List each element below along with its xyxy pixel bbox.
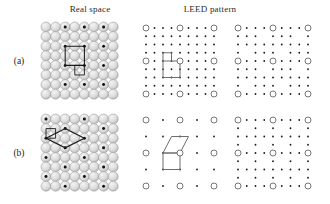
a-leed-multi-svg	[232, 22, 314, 100]
b-leed-multi-svg	[232, 114, 314, 192]
substrate-spots	[143, 117, 217, 189]
panel-a-leed-multi-domain	[232, 22, 314, 100]
a-leed-single-svg	[140, 22, 220, 100]
column-heading-real-space: Real space	[45, 4, 135, 14]
panel-b-leed-single-domain	[140, 114, 220, 192]
figure-leed-real-space: Real space LEED pattern (a) (b)	[0, 0, 330, 204]
a-real-space-svg	[41, 22, 119, 100]
b-leed-single-svg	[140, 114, 220, 192]
panel-a-leed-single-domain	[140, 22, 220, 100]
reciprocal-unit-cell	[163, 153, 180, 170]
panel-b-leed-multi-domain	[232, 114, 314, 192]
substrate-sphere-lattice	[41, 22, 118, 99]
panel-b-real-space	[41, 114, 119, 192]
reciprocal-cell-stub	[163, 53, 172, 61]
oblique-reciprocal-cell	[163, 137, 189, 154]
b-real-space-svg	[41, 114, 119, 192]
substrate-sphere-lattice	[41, 114, 118, 191]
panel-a-real-space	[41, 22, 119, 100]
row-label-b: (b)	[6, 148, 32, 158]
row-label-a: (a)	[6, 56, 32, 66]
column-heading-leed-pattern: LEED pattern	[150, 4, 270, 14]
